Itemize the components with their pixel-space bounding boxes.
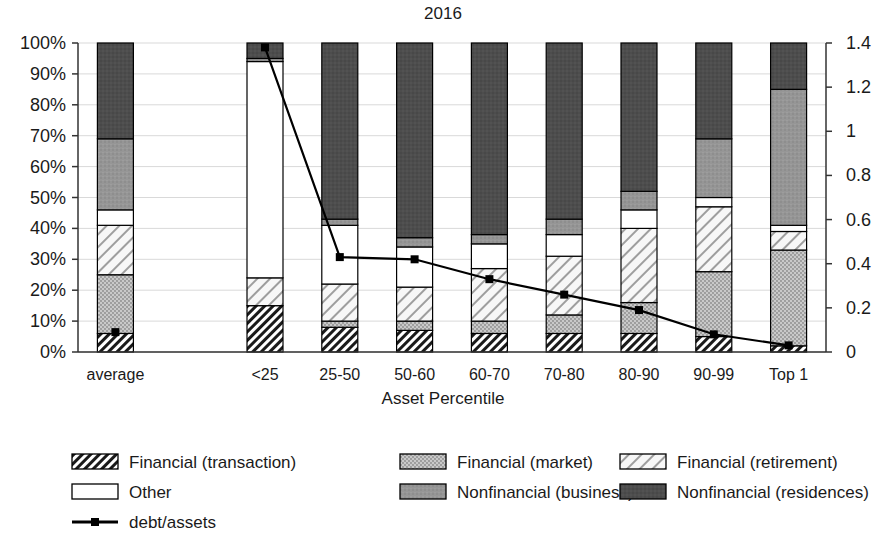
x-axis-tick-label: <25 <box>251 366 278 383</box>
bar-stack <box>322 43 358 352</box>
y-axis-right-tick-label: 1.4 <box>846 33 871 53</box>
bar-segment <box>546 256 582 315</box>
legend-item: Financial (market) <box>400 453 593 472</box>
y-axis-left-tick-label: 30% <box>30 249 66 269</box>
bar-stack <box>621 43 657 352</box>
debt-assets-marker <box>336 253 344 261</box>
bar-stack <box>397 43 433 352</box>
bar-stack <box>247 43 283 352</box>
legend-item: Nonfinancial (residences) <box>620 483 869 502</box>
bar-segment <box>546 43 582 219</box>
bar-segment <box>397 238 433 247</box>
legend-label: Nonfinancial (residences) <box>677 483 869 502</box>
y-axis-right-tick-label: 0 <box>846 342 856 362</box>
debt-assets-marker <box>485 275 493 283</box>
y-axis-left-tick-label: 80% <box>30 95 66 115</box>
chart-container: 2016 0%10%20%30%40%50%60%70%80%90%100% 0… <box>0 0 886 541</box>
bar-segment <box>97 275 133 334</box>
chart-title: 2016 <box>424 4 462 23</box>
bar-segment <box>97 210 133 225</box>
stacked-bar-chart: 2016 0%10%20%30%40%50%60%70%80%90%100% 0… <box>0 0 886 541</box>
legend-label: Financial (market) <box>457 453 593 472</box>
legend-item: Nonfinancial (business) <box>400 483 634 502</box>
legend-label: Financial (transaction) <box>129 453 296 472</box>
bar-segment <box>771 225 807 231</box>
y-axis-left-tick-label: 50% <box>30 188 66 208</box>
bar-segment <box>97 139 133 210</box>
legend-swatch <box>620 484 666 499</box>
legend-label: Nonfinancial (business) <box>457 483 634 502</box>
bar-stack <box>97 43 133 352</box>
x-axis-tick-label: average <box>86 366 144 383</box>
bar-segment <box>546 333 582 352</box>
y-axis-right-tick-label: 0.8 <box>846 165 871 185</box>
y-axis-left-tick-label: 10% <box>30 311 66 331</box>
legend-swatch <box>72 454 118 469</box>
bar-segment <box>696 337 732 352</box>
bar-segment <box>471 244 507 269</box>
legend-label: Other <box>129 483 172 502</box>
debt-assets-marker <box>785 341 793 349</box>
bar-segment <box>621 43 657 191</box>
y-axis-right-tick-label: 0.4 <box>846 254 871 274</box>
bar-segment <box>771 89 807 225</box>
y-axis-left-tick-label: 0% <box>40 342 66 362</box>
bar-segment <box>696 43 732 139</box>
legend-label: Financial (retirement) <box>677 453 838 472</box>
y-axis-left-tick-label: 90% <box>30 64 66 84</box>
bar-segment <box>471 235 507 244</box>
legend-item: Financial (retirement) <box>620 453 838 472</box>
y-axis-left-tick-label: 70% <box>30 126 66 146</box>
bar-segment <box>247 306 283 352</box>
x-axis-tick-label: 60-70 <box>469 366 510 383</box>
x-axis-tick-label: 50-60 <box>394 366 435 383</box>
y-axis-right-tick-label: 1 <box>846 121 856 141</box>
y-axis-left-tick-label: 20% <box>30 280 66 300</box>
legend-swatch <box>620 454 666 469</box>
bar-segment <box>546 219 582 234</box>
x-axis-tick-label: Top 1 <box>769 366 808 383</box>
bar-segment <box>621 228 657 302</box>
bar-segment <box>771 231 807 250</box>
legend-swatch <box>72 484 118 499</box>
debt-assets-marker <box>635 306 643 314</box>
bar-segment <box>696 207 732 272</box>
bar-segment <box>621 191 657 210</box>
debt-assets-marker <box>710 330 718 338</box>
legend-swatch <box>400 484 446 499</box>
bar-segment <box>397 247 433 287</box>
bar-segment <box>546 315 582 334</box>
y-axis-left-tick-label: 100% <box>20 33 66 53</box>
bar-segment <box>621 333 657 352</box>
bar-segment <box>696 139 732 198</box>
bar-segment <box>97 333 133 352</box>
debt-assets-marker <box>560 291 568 299</box>
y-axis-right-tick-label: 0.6 <box>846 210 871 230</box>
debt-assets-marker <box>111 328 119 336</box>
bar-stack <box>546 43 582 352</box>
bar-segment <box>546 235 582 257</box>
bar-segment <box>322 327 358 352</box>
legend-line-marker <box>91 518 99 526</box>
debt-assets-marker <box>261 43 269 51</box>
legend-label: debt/assets <box>129 513 216 532</box>
bar-segment <box>247 62 283 278</box>
bar-segment <box>247 278 283 306</box>
x-axis-tick-label: 80-90 <box>619 366 660 383</box>
x-axis-tick-label: 90-99 <box>693 366 734 383</box>
bar-segment <box>397 330 433 352</box>
bar-segment <box>397 43 433 238</box>
x-axis-tick-label: 25-50 <box>319 366 360 383</box>
bar-segment <box>696 272 732 337</box>
bar-segment <box>322 321 358 327</box>
bar-segment <box>322 43 358 219</box>
bar-segment <box>471 43 507 235</box>
x-axis-tick-label: 70-80 <box>544 366 585 383</box>
bar-segment <box>97 43 133 139</box>
y-axis-right-tick-label: 0.2 <box>846 298 871 318</box>
bar-stack <box>771 43 807 352</box>
bar-segment <box>397 321 433 330</box>
legend-item: Financial (transaction) <box>72 453 296 472</box>
bar-segment <box>621 210 657 229</box>
x-axis-label: Asset Percentile <box>382 389 505 408</box>
